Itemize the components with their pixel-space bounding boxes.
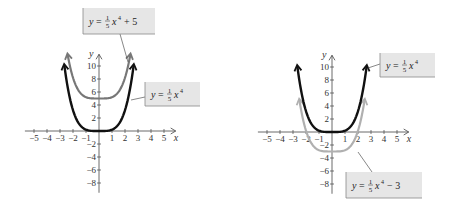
svg-text:=: = (359, 180, 365, 191)
y-tick-label: 6 (92, 87, 97, 97)
svg-text:4: 4 (118, 15, 121, 21)
svg-text:x: x (111, 16, 117, 27)
x-tick-label: 1 (343, 134, 348, 144)
y-tick-label: −2 (86, 139, 96, 149)
x-tick-label: −4 (42, 133, 52, 143)
graph-panel-1: −5−4−3−2−112345108642−2−4−6−8xyy=15x4+ 5… (25, 8, 200, 193)
y-tick-label: 10 (320, 62, 330, 72)
y-tick-label: −8 (86, 178, 96, 188)
equation-callout: y=15x4 (131, 82, 200, 106)
svg-text:=: = (393, 60, 399, 71)
y-tick-label: −4 (319, 153, 329, 163)
equation-callout: y=15x4+ 5 (83, 8, 155, 62)
x-axis-label: x (173, 132, 179, 143)
svg-text:=: = (158, 89, 164, 100)
svg-text:4: 4 (180, 88, 183, 94)
svg-text:x: x (173, 89, 179, 100)
y-axis-label: y (88, 48, 94, 59)
x-tick-label: 2 (123, 133, 128, 143)
svg-text:− 3: − 3 (387, 180, 400, 191)
axes: −5−4−3−2−112345108642−2−4−6−8xy (25, 48, 179, 193)
y-axis-label: y (321, 49, 327, 60)
y-tick-label: 4 (325, 101, 330, 111)
svg-text:y: y (150, 89, 156, 100)
equation-callout: y=15x4 (368, 53, 435, 77)
svg-text:4: 4 (381, 179, 384, 185)
x-tick-label: 3 (136, 133, 141, 143)
x-tick-label: 4 (382, 134, 387, 144)
y-tick-label: 2 (92, 113, 97, 123)
x-tick-label: 5 (395, 134, 400, 144)
x-tick-label: 4 (149, 133, 154, 143)
svg-text:5: 5 (106, 22, 110, 30)
x-tick-label: 5 (162, 133, 167, 143)
svg-text:5: 5 (369, 186, 373, 194)
x-tick-label: 3 (369, 134, 374, 144)
svg-text:x: x (408, 60, 414, 71)
x-tick-label: −4 (275, 134, 285, 144)
y-tick-label: 8 (325, 75, 330, 85)
svg-text:x: x (374, 180, 380, 191)
x-tick-label: −5 (262, 134, 272, 144)
svg-text:4: 4 (415, 59, 418, 65)
y-tick-label: −8 (319, 179, 329, 189)
y-tick-label: −2 (319, 140, 329, 150)
y-tick-label: 6 (325, 88, 330, 98)
svg-text:1: 1 (106, 14, 110, 22)
y-tick-label: 8 (92, 74, 97, 84)
x-tick-label: −2 (68, 133, 78, 143)
equation-callout: y=15x4− 3 (346, 152, 422, 198)
figure-canvas: −5−4−3−2−112345108642−2−4−6−8xyy=15x4+ 5… (0, 0, 452, 207)
x-tick-label: 1 (110, 133, 115, 143)
svg-text:1: 1 (369, 178, 373, 186)
svg-text:+ 5: + 5 (124, 16, 137, 27)
y-tick-label: 2 (325, 114, 330, 124)
svg-text:y: y (385, 60, 391, 71)
y-tick-label: −4 (86, 152, 96, 162)
x-axis-label: x (406, 133, 412, 144)
graph-panel-2: −5−4−3−2−112345108642−2−4−6−8xyy=15x4y=1… (258, 49, 435, 198)
x-tick-label: −3 (288, 134, 298, 144)
y-tick-label: −6 (319, 166, 329, 176)
svg-text:y: y (88, 16, 94, 27)
svg-text:5: 5 (168, 95, 172, 103)
y-tick-label: 10 (87, 61, 97, 71)
x-tick-label: −3 (55, 133, 65, 143)
x-tick-label: −5 (29, 133, 39, 143)
svg-text:y: y (351, 180, 357, 191)
svg-text:1: 1 (403, 58, 407, 66)
svg-text:=: = (96, 16, 102, 27)
svg-text:5: 5 (403, 66, 407, 74)
y-tick-label: −6 (86, 165, 96, 175)
svg-text:1: 1 (168, 87, 172, 95)
y-tick-label: 4 (92, 100, 97, 110)
